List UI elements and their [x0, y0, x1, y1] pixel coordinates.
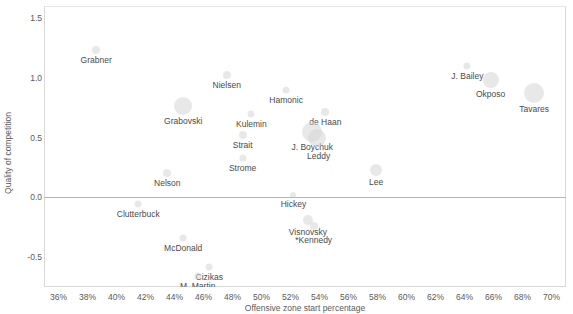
x-axis-tick-label: 54%: [311, 292, 328, 302]
x-axis-tick-label: 68%: [514, 292, 531, 302]
data-point-label: Grabovski: [164, 116, 202, 126]
x-axis-tick-label: 62%: [427, 292, 444, 302]
data-point-bubble[interactable]: [135, 201, 142, 208]
data-point-label: Grabner: [81, 55, 112, 65]
data-point-bubble[interactable]: [239, 131, 247, 139]
data-point-bubble[interactable]: [308, 129, 326, 147]
data-point-bubble[interactable]: [180, 234, 187, 241]
y-axis-tick-label: 1.5: [2, 13, 42, 23]
x-axis-tick-label: 40%: [108, 292, 125, 302]
data-point-label: Hickey: [281, 199, 307, 209]
data-point-bubble[interactable]: [321, 108, 329, 116]
data-point-bubble[interactable]: [524, 83, 544, 103]
data-point-bubble[interactable]: [283, 86, 290, 93]
x-axis-tick-label: 60%: [398, 292, 415, 302]
x-axis-tick-label: 42%: [137, 292, 154, 302]
x-axis-tick-label: 56%: [340, 292, 357, 302]
x-axis-tick-label: 48%: [224, 292, 241, 302]
x-axis-tick-label: 52%: [282, 292, 299, 302]
x-axis-tick-label: 64%: [456, 292, 473, 302]
data-point-label: Clutterbuck: [117, 209, 160, 219]
x-axis-tick-label: 46%: [195, 292, 212, 302]
data-point-bubble[interactable]: [239, 154, 246, 161]
plot-area[interactable]: GrabnerNielsenJ. BaileyHamonicOkposoTava…: [44, 6, 566, 287]
data-point-label: Strait: [233, 140, 253, 150]
data-point-bubble[interactable]: [248, 110, 255, 117]
data-point-label: Okposo: [476, 89, 505, 99]
data-point-bubble[interactable]: [464, 62, 471, 69]
y-axis-tick-label: -0.5: [2, 252, 42, 262]
data-point-label: Lee: [369, 177, 383, 187]
data-point-label: Kulemin: [236, 119, 267, 129]
x-axis-tick-label: 66%: [485, 292, 502, 302]
data-point-label: J. Bailey: [451, 71, 483, 81]
data-point-bubble[interactable]: [174, 97, 192, 115]
data-point-bubble[interactable]: [92, 46, 100, 54]
data-point-label: Leddy: [307, 151, 330, 161]
data-point-label: Strome: [229, 163, 256, 173]
x-axis-tick-label: 50%: [253, 292, 270, 302]
scatter-chart: GrabnerNielsenJ. BaileyHamonicOkposoTava…: [0, 0, 573, 314]
data-point-bubble[interactable]: [223, 71, 231, 79]
x-axis-tick-label: 36%: [50, 292, 67, 302]
x-axis-tick-label: 38%: [79, 292, 96, 302]
data-point-label: Nielsen: [213, 80, 241, 90]
data-point-label: Hamonic: [269, 95, 303, 105]
data-point-bubble[interactable]: [194, 273, 201, 280]
data-point-bubble[interactable]: [483, 72, 499, 88]
zero-reference-line: [44, 197, 566, 198]
data-point-bubble[interactable]: [206, 263, 213, 270]
x-axis-tick-label: 44%: [166, 292, 183, 302]
data-point-bubble[interactable]: [370, 164, 382, 176]
data-point-bubble[interactable]: [163, 169, 171, 177]
y-axis-tick-label: 1.0: [2, 73, 42, 83]
x-axis-tick-label: 70%: [543, 292, 560, 302]
data-point-label: McDonald: [164, 243, 202, 253]
y-axis-title: Quality of competition: [3, 93, 13, 213]
data-point-label: Tavares: [519, 104, 549, 114]
data-point-label: M. Martin: [180, 281, 215, 287]
x-axis-title: Offensive zone start percentage: [44, 303, 566, 313]
data-point-label: Nelson: [154, 178, 180, 188]
data-point-label: *Kennedy: [295, 235, 332, 245]
x-axis-tick-label: 58%: [369, 292, 386, 302]
data-point-bubble[interactable]: [310, 222, 318, 230]
